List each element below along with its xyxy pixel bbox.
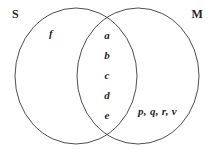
set-label-m: M (191, 8, 203, 20)
element-intersection-4: e (92, 110, 122, 121)
element-intersection-2: c (92, 70, 122, 81)
element-m-only-0: p, q, r, v (138, 105, 177, 117)
element-intersection-0: a (92, 30, 122, 41)
venn-diagram: S M f a b c d e p, q, r, v (0, 0, 213, 149)
set-label-s: S (12, 8, 19, 20)
region-m-only: p, q, r, v (138, 101, 190, 119)
region-intersection: a b c d e (92, 30, 122, 121)
element-intersection-1: b (92, 50, 122, 61)
element-s-only-0: f (49, 28, 53, 39)
element-intersection-3: d (92, 90, 122, 101)
